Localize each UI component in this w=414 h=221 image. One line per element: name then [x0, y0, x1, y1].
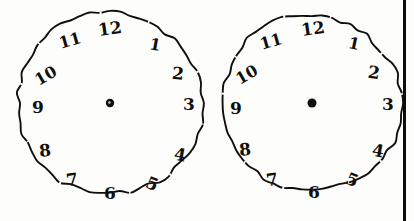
clock-numeral-6: 6 [308, 184, 320, 201]
center-dot-highlight [108, 101, 111, 104]
page-border-line [403, 0, 406, 221]
clock-numeral-3: 3 [382, 96, 394, 113]
clock-numeral-2: 2 [171, 65, 185, 83]
clock-numeral-8: 8 [38, 142, 52, 160]
clock-face-left: 121234567891011 [4, 0, 216, 209]
clock-face-right: 121234567891011 [209, 0, 414, 206]
clock-numeral-12: 12 [97, 19, 123, 39]
clock-numeral-9: 9 [32, 99, 44, 116]
clock-numeral-3: 3 [183, 96, 195, 113]
clock-numeral-6: 6 [104, 185, 116, 202]
clock-numeral-2: 2 [367, 64, 381, 82]
clock-numeral-8: 8 [238, 141, 252, 159]
clock-numeral-9: 9 [230, 100, 242, 117]
clock-numeral-7: 7 [65, 171, 79, 189]
clock-numeral-12: 12 [300, 19, 326, 39]
clock-numeral-7: 7 [265, 171, 279, 189]
clock-center-dot [308, 99, 317, 108]
scanned-worksheet: 121234567891011 121234567891011 [0, 0, 414, 221]
